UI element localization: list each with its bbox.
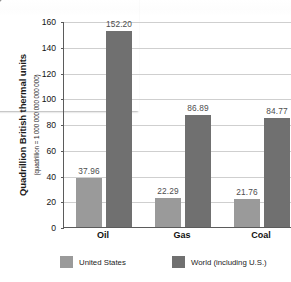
y-axis-tick-label: 140: [42, 43, 56, 53]
bar-value-label: 21.76: [236, 187, 257, 197]
y-axis-tick-label: 20: [46, 197, 56, 207]
bar-group: 22.2986.89: [155, 22, 211, 227]
y-axis-tick-label: 80: [46, 120, 56, 130]
bar-value-label: 86.89: [187, 103, 208, 113]
y-axis-tick-mark: [61, 202, 64, 203]
bar-coal-world: 84.77: [264, 118, 290, 227]
y-axis-tick-label: 160: [42, 17, 56, 27]
bar-value-label: 152.20: [106, 19, 132, 29]
y-axis-tick-mark: [61, 48, 64, 49]
chart-legend: United StatesWorld (including U.S.): [0, 252, 291, 276]
x-axis-label-gas: Gas: [173, 230, 190, 240]
legend-swatch-icon: [172, 256, 185, 268]
x-axis-label-oil: Oil: [97, 230, 109, 240]
legend-item-world[interactable]: World (including U.S.): [172, 256, 267, 268]
y-axis-tick-label: 60: [46, 146, 56, 156]
x-axis-tick-labels: OilGasCoal: [63, 230, 291, 246]
bar-oil-world: 152.20: [106, 31, 132, 227]
bar-value-label: 37.96: [78, 166, 99, 176]
legend-swatch-icon: [60, 256, 73, 268]
y-axis-tick-label: 40: [46, 172, 56, 182]
bar-gas-united-states: 22.29: [155, 198, 181, 227]
y-axis-tick-mark: [61, 228, 64, 229]
y-axis-tick-mark: [61, 125, 64, 126]
y-axis-tick-mark: [61, 177, 64, 178]
plot-area: 37.96152.2022.2986.8921.7684.77: [63, 22, 291, 228]
bar-oil-united-states: 37.96: [76, 178, 102, 227]
legend-label: United States: [79, 258, 126, 267]
bar-value-label: 22.29: [157, 186, 178, 196]
bar-group: 21.7684.77: [234, 22, 290, 227]
y-axis-tick-label: 0: [51, 223, 56, 233]
y-axis-tick-mark: [61, 22, 64, 23]
y-axis-tick-label: 120: [42, 69, 56, 79]
bar-value-label: 84.77: [266, 106, 287, 116]
y-axis-tick-mark: [61, 74, 64, 75]
bar-group: 37.96152.20: [76, 22, 132, 227]
x-axis-label-coal: Coal: [251, 230, 271, 240]
legend-label: World (including U.S.): [191, 258, 267, 267]
y-axis-tick-mark: [61, 99, 64, 100]
y-axis-tick-labels: 020406080100120140160: [0, 22, 60, 228]
bar-gas-world: 86.89: [185, 115, 211, 227]
bar-coal-united-states: 21.76: [234, 199, 260, 227]
legend-item-united-states[interactable]: United States: [60, 256, 126, 268]
y-axis-tick-label: 100: [42, 94, 56, 104]
y-axis-tick-mark: [61, 151, 64, 152]
bar-chart: Quadrillion British thermal units (quadr…: [0, 0, 291, 282]
